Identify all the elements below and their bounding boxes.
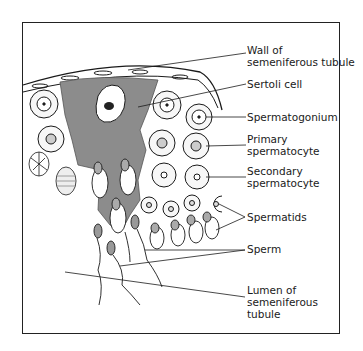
label-secondary-spermatocyte: Secondary spermatocyte: [247, 165, 320, 189]
label-lumen: Lumen of semeniferous tubule: [247, 284, 318, 320]
label-spermatogonium: Spermatogonium: [247, 111, 338, 123]
elongating-spermatids: [150, 212, 219, 249]
label-wall: Wall of semeniferous tubule: [247, 44, 355, 68]
label-sperm: Sperm: [247, 243, 281, 255]
label-sertoli-cell: Sertoli cell: [247, 78, 302, 90]
secondary-spermatocytes: [152, 163, 209, 189]
label-spermatids: Spermatids: [247, 211, 307, 223]
label-primary-spermatocyte: Primary spermatocyte: [247, 133, 320, 157]
